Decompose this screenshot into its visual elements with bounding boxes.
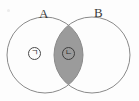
- set-a-label: A: [39, 7, 48, 20]
- background-speck: [7, 9, 10, 12]
- region-marker-a-only: ㄱ: [28, 47, 41, 60]
- venn-diagram-figure: A B ㄱ ㄴ: [0, 0, 139, 101]
- region-marker-intersection: ㄴ: [62, 47, 75, 60]
- set-b-label: B: [94, 6, 103, 19]
